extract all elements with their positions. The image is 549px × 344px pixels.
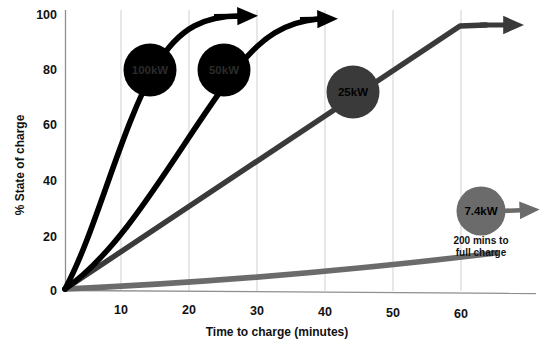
- bubble-100kw-label: 100kW: [132, 64, 169, 76]
- bubble-7-4kw[interactable]: 7.4kW: [457, 187, 506, 236]
- y-tick-80: 80: [43, 63, 57, 77]
- bubble-25kw[interactable]: 25kW: [327, 66, 380, 119]
- y-axis-title: % State of charge: [13, 114, 27, 215]
- arrow-50kw: [300, 19, 326, 20]
- x-tick-50: 50: [386, 306, 400, 320]
- ev-charging-chart: 100kW 50kW 25kW 7.4kW 200 mins to full c…: [0, 0, 549, 344]
- x-tick-30: 30: [250, 304, 264, 318]
- x-tick-20: 20: [182, 303, 196, 317]
- bubble-7-4kw-label: 7.4kW: [464, 205, 497, 217]
- x-tick-60: 60: [454, 307, 468, 321]
- y-tick-0: 0: [50, 284, 57, 298]
- annotation-line-2: full charge: [456, 247, 507, 258]
- bubble-25kw-label: 25kW: [338, 86, 368, 98]
- x-axis-title: Time to charge (minutes): [206, 325, 348, 339]
- bubble-50kw[interactable]: 50kW: [198, 44, 251, 97]
- y-tick-40: 40: [43, 174, 57, 188]
- x-tick-40: 40: [318, 305, 332, 319]
- bubble-100kw[interactable]: 100kW: [124, 44, 177, 97]
- bubble-50kw-label: 50kW: [209, 64, 239, 76]
- y-tick-100: 100: [36, 8, 57, 22]
- annotation-line-1: 200 mins to: [453, 235, 508, 246]
- y-tick-60: 60: [43, 118, 57, 132]
- arrow-100kw: [214, 16, 246, 17]
- chart-canvas: 100kW 50kW 25kW 7.4kW 200 mins to full c…: [0, 0, 549, 344]
- y-tick-20: 20: [43, 230, 57, 244]
- x-tick-10: 10: [114, 303, 128, 317]
- annotation-7-4kw: 200 mins to full charge: [453, 235, 508, 258]
